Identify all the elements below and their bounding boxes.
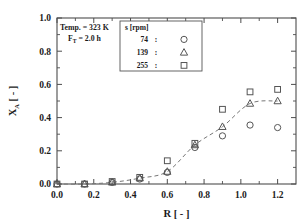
legend-label-139: 139 xyxy=(137,48,149,57)
y-tick-label: 0.4 xyxy=(39,113,51,123)
legend-label-74: 74 xyxy=(141,35,149,44)
x-tick-label: 1.2 xyxy=(272,190,284,200)
legend-colon: : xyxy=(155,61,158,70)
y-axis-title: XA [ - ] xyxy=(7,86,20,117)
legend-label-255: 255 xyxy=(137,61,149,70)
legend-colon: : xyxy=(155,48,158,57)
x-tick-label: 1.0 xyxy=(235,190,247,200)
data-point-74 xyxy=(274,124,280,130)
x-tick-label: 0.4 xyxy=(125,190,137,200)
data-point-74 xyxy=(219,133,225,139)
y-tick-label: 0.2 xyxy=(39,146,51,156)
data-point-255 xyxy=(247,89,253,95)
chart-figure: 0.00.20.40.60.81.01.20.00.20.40.60.81.0R… xyxy=(0,0,305,224)
fit-curve xyxy=(57,101,278,184)
annotation-residence-time: FT = 2.0 h xyxy=(68,34,102,44)
data-point-255 xyxy=(164,158,170,164)
x-tick-label: 0.8 xyxy=(198,190,210,200)
y-tick-label: 1.0 xyxy=(39,13,51,23)
data-point-255 xyxy=(220,106,226,112)
legend-title: s [rpm] xyxy=(125,23,149,32)
y-tick-label: 0.0 xyxy=(39,179,51,189)
y-tick-label: 0.8 xyxy=(39,47,51,57)
x-axis-title: R [ - ] xyxy=(164,208,190,219)
x-tick-label: 0.0 xyxy=(51,190,63,200)
data-point-74 xyxy=(247,122,253,128)
data-point-255 xyxy=(275,87,281,93)
scatter-plot: 0.00.20.40.60.81.01.20.00.20.40.60.81.0R… xyxy=(0,0,305,224)
x-tick-label: 0.2 xyxy=(88,190,100,200)
annotation-temperature: Temp. = 323 K xyxy=(60,23,109,32)
y-tick-label: 0.6 xyxy=(39,80,51,90)
legend-colon: : xyxy=(155,35,158,44)
x-tick-label: 0.6 xyxy=(161,190,173,200)
data-point-139 xyxy=(274,97,281,104)
